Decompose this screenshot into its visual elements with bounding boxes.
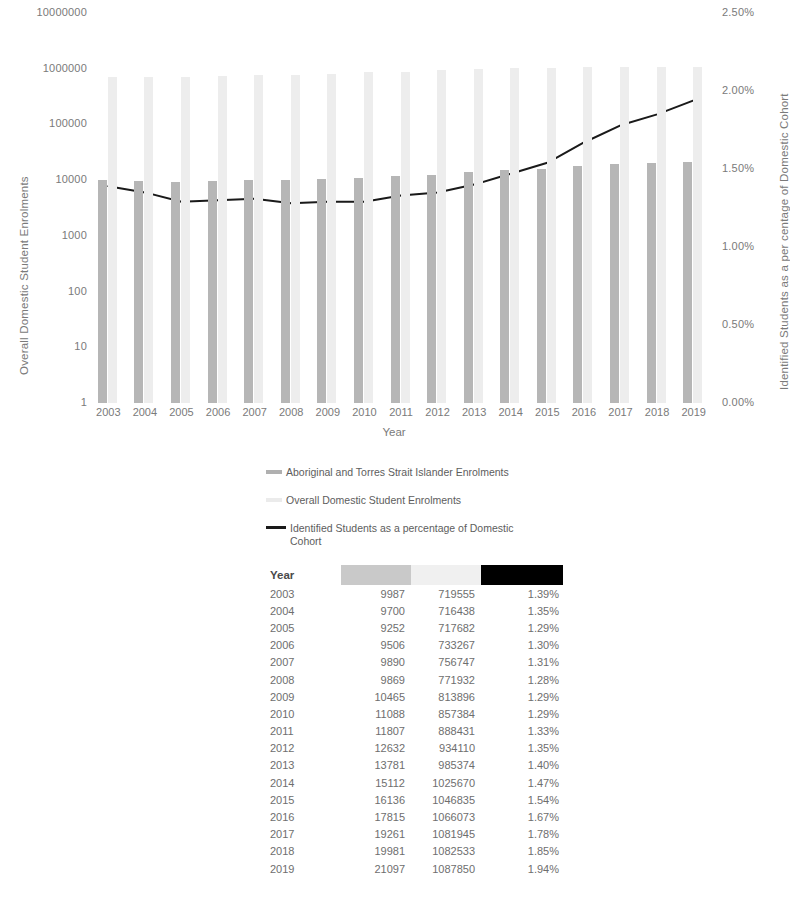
x-axis-tick: 2013 xyxy=(454,406,494,418)
cell-percentage: 1.39% xyxy=(481,585,563,602)
cell-overall-enrolments: 1081945 xyxy=(411,826,481,843)
table-body: 200399877195551.39%200497007164381.35%20… xyxy=(268,585,563,877)
y-axis-left-tick: 1000000 xyxy=(5,62,87,74)
x-axis-tick: 2005 xyxy=(161,406,201,418)
y-axis-left-tick: 10000000 xyxy=(5,6,87,18)
cell-year: 2010 xyxy=(268,705,341,722)
cell-overall-enrolments: 1025670 xyxy=(411,774,481,791)
bar-indigenous-enrolments xyxy=(573,166,582,403)
bar-overall-enrolments xyxy=(547,68,556,403)
bar-indigenous-enrolments xyxy=(244,180,253,403)
chart-figure: 110100100010000100000100000010000000 0.0… xyxy=(0,0,788,455)
bar-overall-enrolments xyxy=(144,77,153,403)
x-axis-tick: 2016 xyxy=(564,406,604,418)
bar-overall-enrolments xyxy=(474,69,483,403)
cell-year: 2014 xyxy=(268,774,341,791)
cell-indigenous-enrolments: 21097 xyxy=(341,860,411,877)
legend-swatch-percentage-line xyxy=(266,526,286,529)
bar-overall-enrolments xyxy=(218,76,227,403)
cell-year: 2009 xyxy=(268,688,341,705)
cell-indigenous-enrolments: 11088 xyxy=(341,705,411,722)
x-axis-tick: 2015 xyxy=(527,406,567,418)
bar-indigenous-enrolments xyxy=(464,172,473,403)
cell-indigenous-enrolments: 15112 xyxy=(341,774,411,791)
bar-indigenous-enrolments xyxy=(500,170,509,403)
y-axis-right-tick: 1.50% xyxy=(722,162,782,174)
legend-item[interactable]: Overall Domestic Student Enrolments xyxy=(266,494,686,507)
table-row: 20192109710878501.94% xyxy=(268,860,563,877)
table-row: 2012126329341101.35% xyxy=(268,740,563,757)
table-header-row: Year xyxy=(268,565,563,585)
bar-indigenous-enrolments xyxy=(391,176,400,403)
column-header-year: Year xyxy=(268,565,341,585)
cell-indigenous-enrolments: 9506 xyxy=(341,637,411,654)
cell-overall-enrolments: 1066073 xyxy=(411,808,481,825)
cell-overall-enrolments: 1087850 xyxy=(411,860,481,877)
cell-year: 2007 xyxy=(268,654,341,671)
bar-overall-enrolments xyxy=(254,75,263,403)
cell-year: 2017 xyxy=(268,826,341,843)
percentage-color-swatch xyxy=(481,565,563,585)
cell-overall-enrolments: 985374 xyxy=(411,757,481,774)
x-axis-tick: 2017 xyxy=(601,406,641,418)
table-row: 2011118078884311.33% xyxy=(268,723,563,740)
table-row: 200399877195551.39% xyxy=(268,585,563,602)
y-axis-right-tick: 2.50% xyxy=(722,6,782,18)
cell-year: 2008 xyxy=(268,671,341,688)
x-axis-tick: 2003 xyxy=(88,406,128,418)
cell-indigenous-enrolments: 9987 xyxy=(341,585,411,602)
bar-indigenous-enrolments xyxy=(354,178,363,403)
cell-indigenous-enrolments: 9252 xyxy=(341,619,411,636)
cell-percentage: 1.29% xyxy=(481,619,563,636)
bar-indigenous-enrolments xyxy=(208,181,217,403)
y-axis-left-title: Overall Domestic Student Enrolments xyxy=(18,176,30,375)
y-axis-left-tick: 100000 xyxy=(5,117,87,129)
bar-indigenous-enrolments xyxy=(317,179,326,403)
x-axis-tick: 2014 xyxy=(491,406,531,418)
legend-item-label: Aboriginal and Torres Strait Islander En… xyxy=(286,466,509,479)
table-row: 200798907567471.31% xyxy=(268,654,563,671)
cell-percentage: 1.35% xyxy=(481,740,563,757)
x-axis-tick: 2004 xyxy=(125,406,165,418)
table-row: 200592527176821.29% xyxy=(268,619,563,636)
x-axis-tick: 2010 xyxy=(344,406,384,418)
x-axis-tick: 2007 xyxy=(235,406,275,418)
table-row: 200497007164381.35% xyxy=(268,602,563,619)
bar-indigenous-enrolments xyxy=(281,180,290,403)
cell-percentage: 1.35% xyxy=(481,602,563,619)
cell-overall-enrolments: 813896 xyxy=(411,688,481,705)
cell-percentage: 1.29% xyxy=(481,688,563,705)
legend-swatch-overall xyxy=(266,498,282,502)
bar-indigenous-enrolments xyxy=(537,169,546,403)
legend-item-label: Identified Students as a percentage of D… xyxy=(290,522,540,548)
x-axis-tick: 2011 xyxy=(381,406,421,418)
cell-indigenous-enrolments: 16136 xyxy=(341,791,411,808)
cell-year: 2013 xyxy=(268,757,341,774)
table-row: 20141511210256701.47% xyxy=(268,774,563,791)
table-row: 200695067332671.30% xyxy=(268,637,563,654)
x-axis-tick: 2009 xyxy=(308,406,348,418)
y-axis-left-tick: 1 xyxy=(5,396,87,408)
cell-year: 2005 xyxy=(268,619,341,636)
cell-indigenous-enrolments: 19981 xyxy=(341,843,411,860)
cell-overall-enrolments: 888431 xyxy=(411,723,481,740)
cell-percentage: 1.40% xyxy=(481,757,563,774)
legend-item[interactable]: Identified Students as a percentage of D… xyxy=(266,522,686,548)
bar-overall-enrolments xyxy=(657,67,666,403)
table-head: Year xyxy=(268,565,563,585)
table-row: 20181998110825331.85% xyxy=(268,843,563,860)
cell-indigenous-enrolments: 12632 xyxy=(341,740,411,757)
x-axis-tick: 2018 xyxy=(637,406,677,418)
cell-year: 2015 xyxy=(268,791,341,808)
legend-item[interactable]: Aboriginal and Torres Strait Islander En… xyxy=(266,466,686,479)
bar-indigenous-enrolments xyxy=(427,175,436,404)
bar-overall-enrolments xyxy=(401,72,410,403)
cell-year: 2019 xyxy=(268,860,341,877)
bar-overall-enrolments xyxy=(693,67,702,403)
chart-legend: Aboriginal and Torres Strait Islander En… xyxy=(266,466,686,563)
table-row: 2010110888573841.29% xyxy=(268,705,563,722)
cell-year: 2004 xyxy=(268,602,341,619)
bar-overall-enrolments xyxy=(620,67,629,403)
y-axis-right-tick: 0.50% xyxy=(722,318,782,330)
